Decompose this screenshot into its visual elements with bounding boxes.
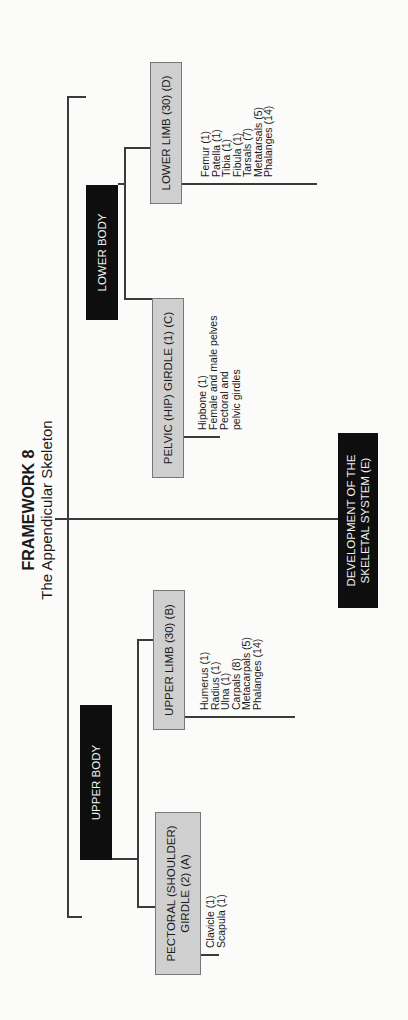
list-item: Phalanges (14) [263, 106, 274, 185]
pelvic-girdle-box: PELVIC (HIP) GIRDLE (1) (C) [152, 298, 184, 478]
framework-diagram: FRAMEWORK 8 The Appendicular Skeleton UP… [0, 0, 408, 1020]
upper-limb-drop [137, 640, 153, 642]
lower-limb-drop [124, 148, 150, 150]
list-item: Pectoral and pelvic girdles [218, 350, 242, 438]
pectoral-girdle-box: PECTORAL (SHOULDER) GIRDLE (2) (A) [155, 812, 201, 975]
title-heading: FRAMEWORK 8 [20, 0, 38, 1020]
list-item: Humerus (1) [199, 637, 210, 718]
lower-body-connector [118, 184, 124, 186]
upper-limb-list: Humerus (1) Radius (1) Ulna (1) Carpals … [199, 637, 262, 718]
list-item: Scapula (1) [216, 894, 227, 956]
lower-limb-list: Femur (1) Patella (1) Tibia (1) Fibula (… [200, 106, 274, 185]
lower-body-box: LOWER BODY [86, 185, 118, 320]
pectoral-girdle-list: Clavicle (1) Scapula (1) [205, 894, 226, 956]
upper-limb-label: UPPER LIMB (30) (B) [162, 604, 176, 716]
pectoral-drop [137, 907, 155, 909]
trunk-drop-left [67, 917, 82, 919]
list-item: Hipbone (1) [197, 316, 208, 438]
development-label: DEVELOPMENT OF THE SKELETAL SYSTEM (E) [344, 433, 372, 608]
list-item: Phalanges (14) [252, 637, 263, 718]
pelvic-girdle-list: Hipbone (1) Female and male pelves Pecto… [197, 316, 242, 438]
list-item: Clavicle (1) [205, 894, 216, 956]
upper-limb-box: UPPER LIMB (30) (B) [153, 590, 185, 730]
upper-body-label: UPPER BODY [89, 745, 103, 820]
list-item: Metacarpals (5) [241, 637, 252, 718]
lower-limb-label: LOWER LIMB (30) (D) [159, 76, 173, 191]
list-item: Ulna (1) [220, 637, 231, 718]
trunk-drop-right [67, 97, 86, 99]
central-stem-line [55, 519, 338, 521]
pectoral-girdle-label: PECTORAL (SHOULDER) GIRDLE (2) (A) [164, 813, 192, 974]
pelvic-drop [124, 299, 152, 301]
pelvic-girdle-label: PELVIC (HIP) GIRDLE (1) (C) [161, 312, 175, 465]
list-item: Tibia (1) [221, 106, 232, 185]
upper-body-branch-line [137, 640, 139, 908]
lower-limb-box: LOWER LIMB (30) (D) [150, 62, 182, 204]
list-item: Femur (1) [200, 106, 211, 185]
development-box: DEVELOPMENT OF THE SKELETAL SYSTEM (E) [338, 433, 378, 608]
lower-body-label: LOWER BODY [95, 214, 109, 292]
upper-body-connector [112, 859, 137, 861]
list-item: Tarsals (7) [242, 106, 253, 185]
main-trunk-line [67, 97, 69, 918]
lower-body-branch-line [124, 148, 126, 300]
list-item: Female and male pelves [208, 316, 219, 438]
title-subheading: The Appendicular Skeleton [38, 0, 56, 1020]
upper-body-box: UPPER BODY [80, 705, 112, 860]
diagram-title: FRAMEWORK 8 The Appendicular Skeleton [20, 0, 56, 1020]
